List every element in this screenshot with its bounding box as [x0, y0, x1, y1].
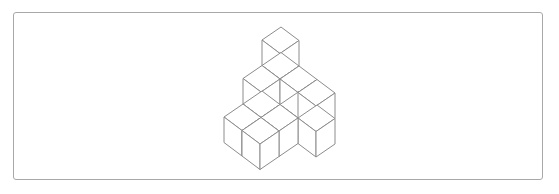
cube-stack-diagram — [0, 0, 559, 194]
